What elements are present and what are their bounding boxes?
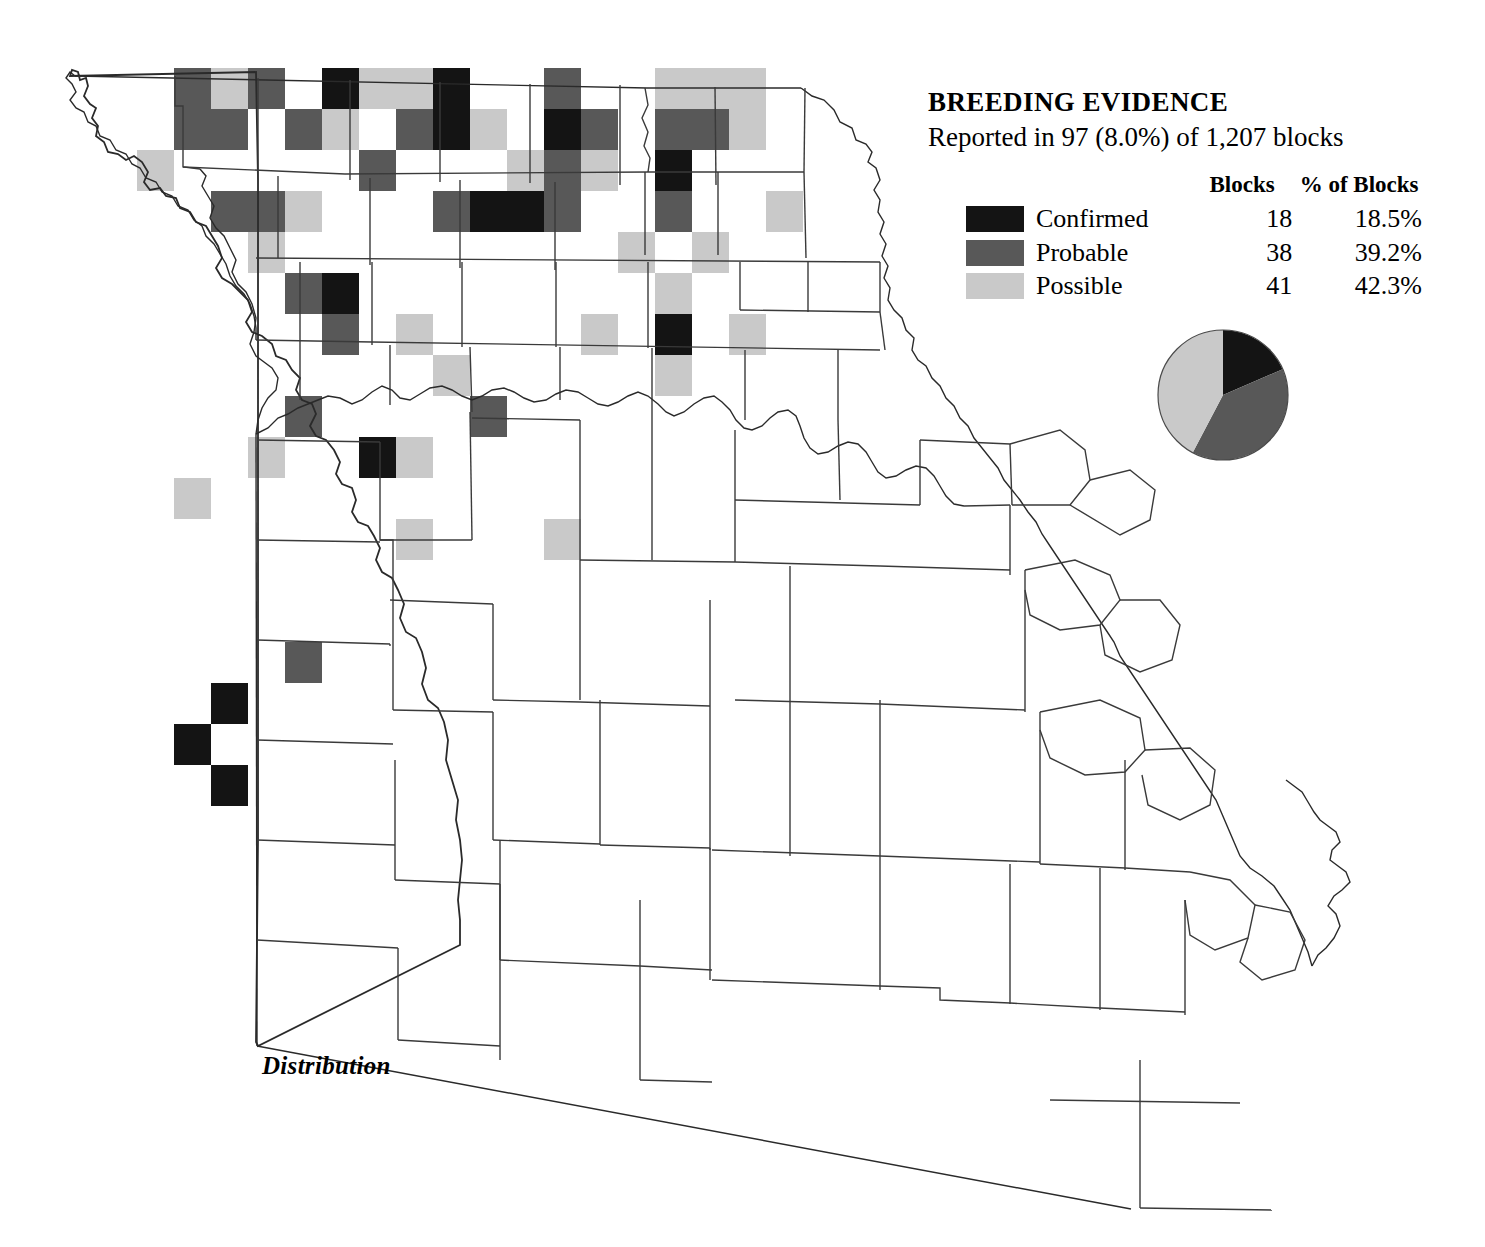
breeding-block-probable <box>285 273 322 314</box>
breeding-block-probable <box>544 68 581 109</box>
breeding-evidence-pie-chart <box>1155 325 1291 465</box>
breeding-block-probable <box>322 314 359 355</box>
breeding-block-confirmed <box>655 150 692 191</box>
legend-swatch-cell <box>966 202 1030 236</box>
breeding-block-possible <box>581 150 618 191</box>
breeding-block-possible <box>470 109 507 150</box>
breeding-block-confirmed <box>655 314 692 355</box>
legend-title: BREEDING EVIDENCE <box>928 88 1428 117</box>
breeding-block-possible <box>692 232 729 273</box>
breeding-block-possible <box>729 314 766 355</box>
breeding-block-possible <box>396 68 433 109</box>
breeding-block-possible <box>322 109 359 150</box>
breeding-block-possible <box>359 68 396 109</box>
breeding-block-confirmed <box>359 437 396 478</box>
breeding-block-probable <box>285 109 322 150</box>
breeding-block-possible <box>248 232 285 273</box>
legend-percent-possible: 42.3% <box>1292 269 1428 303</box>
legend-swatch-cell <box>966 236 1030 270</box>
breeding-block-possible <box>655 355 692 396</box>
breeding-block-probable <box>359 150 396 191</box>
breeding-block-possible <box>248 437 285 478</box>
breeding-block-possible <box>766 191 803 232</box>
probable-swatch-icon <box>966 240 1024 266</box>
bootheel-counties <box>1050 1060 1272 1210</box>
breeding-block-confirmed <box>470 191 507 232</box>
breeding-block-possible <box>618 232 655 273</box>
breeding-block-probable <box>655 109 692 150</box>
county-lines-east <box>920 430 1305 980</box>
breeding-block-confirmed <box>322 273 359 314</box>
legend-percent-confirmed: 18.5% <box>1292 202 1428 236</box>
legend-header-percent: % of Blocks <box>1292 170 1428 202</box>
breeding-block-probable <box>396 109 433 150</box>
legend-panel: BREEDING EVIDENCE Reported in 97 (8.0%) … <box>928 88 1428 303</box>
breeding-block-possible <box>655 273 692 314</box>
breeding-block-probable <box>544 191 581 232</box>
breeding-block-confirmed <box>211 765 248 806</box>
legend-header-blocks: Blocks <box>1198 170 1292 202</box>
legend-row-possible: Possible 41 42.3% <box>966 269 1428 303</box>
possible-swatch-icon <box>966 273 1024 299</box>
breeding-block-probable <box>433 191 470 232</box>
pie-chart-svg <box>1155 325 1291 465</box>
breeding-block-possible <box>581 314 618 355</box>
breeding-block-probable <box>285 642 322 683</box>
bootheel-east-border <box>1286 780 1350 966</box>
breeding-block-confirmed <box>211 683 248 724</box>
breeding-block-probable <box>655 191 692 232</box>
breeding-block-probable <box>174 68 211 150</box>
county-lines-central <box>257 412 1190 1082</box>
legend-row-probable: Probable 38 39.2% <box>966 236 1428 270</box>
breeding-block-possible <box>544 519 581 560</box>
legend-blocks-probable: 38 <box>1198 236 1292 270</box>
breeding-block-possible <box>729 109 766 150</box>
breeding-block-probable <box>248 68 285 109</box>
legend-blocks-possible: 41 <box>1198 269 1292 303</box>
breeding-block-probable <box>581 109 618 150</box>
breeding-block-probable <box>248 191 285 232</box>
legend-label-possible: Possible <box>1030 269 1198 303</box>
breeding-block-possible <box>396 437 433 478</box>
pie-slices <box>1158 330 1288 460</box>
breeding-block-probable <box>544 150 581 191</box>
breeding-block-confirmed <box>433 109 470 150</box>
distribution-caption: Distribution <box>262 1052 391 1080</box>
breeding-block-probable <box>692 109 729 150</box>
legend-percent-probable: 39.2% <box>1292 236 1428 270</box>
page-root: BREEDING EVIDENCE Reported in 97 (8.0%) … <box>0 0 1485 1247</box>
breeding-block-probable <box>211 109 248 150</box>
western-border-straight <box>256 434 257 1046</box>
legend-header-row: Blocks % of Blocks <box>966 170 1428 202</box>
legend-blocks-confirmed: 18 <box>1198 202 1292 236</box>
breeding-block-probable <box>470 396 507 437</box>
breeding-block-possible <box>396 314 433 355</box>
breeding-block-possible <box>507 150 544 191</box>
legend-header-spacer <box>966 170 1030 202</box>
breeding-block-possible <box>285 191 322 232</box>
legend-swatch-cell <box>966 269 1030 303</box>
legend-table: Blocks % of Blocks Confirmed 18 18.5% <box>966 170 1428 303</box>
breeding-block-confirmed <box>322 68 359 109</box>
confirmed-swatch-icon <box>966 206 1024 232</box>
breeding-block-probable <box>211 191 248 232</box>
breeding-block-possible <box>211 68 248 109</box>
legend-label-confirmed: Confirmed <box>1030 202 1198 236</box>
breeding-block-possible <box>174 478 211 519</box>
breeding-block-confirmed <box>174 724 211 765</box>
legend-row-confirmed: Confirmed 18 18.5% <box>966 202 1428 236</box>
breeding-block-confirmed <box>544 109 581 150</box>
legend-subtitle: Reported in 97 (8.0%) of 1,207 blocks <box>928 121 1428 153</box>
breeding-block-confirmed <box>433 68 470 109</box>
legend-label-probable: Probable <box>1030 236 1198 270</box>
breeding-block-possible <box>137 150 174 191</box>
breeding-block-probable <box>285 396 322 437</box>
legend-header-category <box>1030 170 1198 202</box>
breeding-block-confirmed <box>507 191 544 232</box>
